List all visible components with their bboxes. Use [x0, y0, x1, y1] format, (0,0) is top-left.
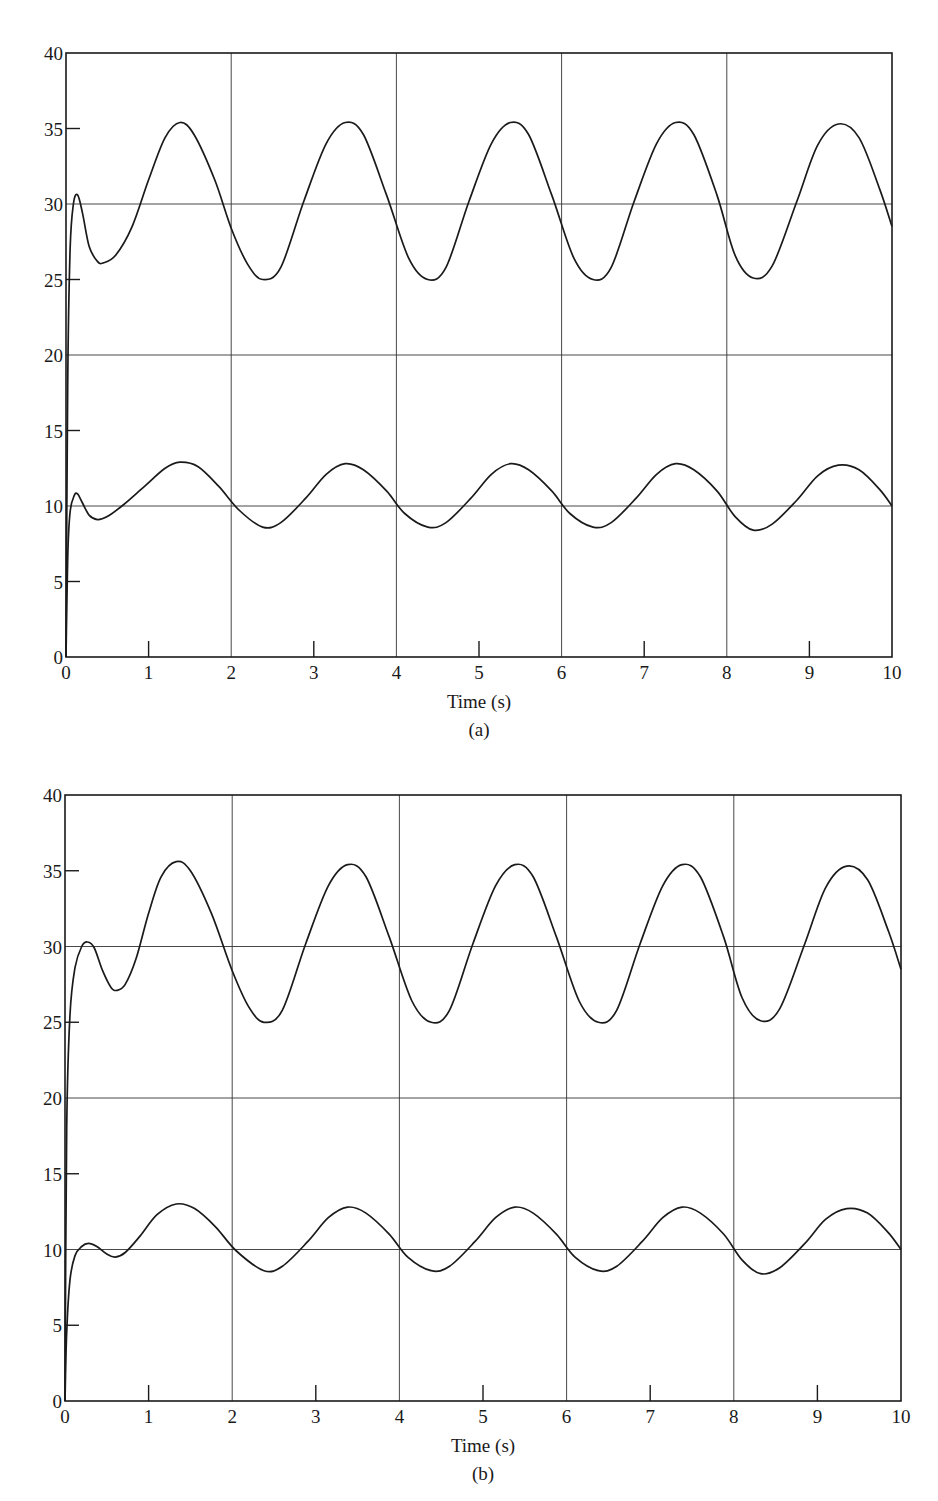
x-tick-label: 4	[395, 1406, 405, 1427]
y-tick-label: 20	[44, 345, 63, 366]
x-tick-label: 7	[639, 662, 649, 683]
x-tick-label: 7	[645, 1406, 655, 1427]
series-line-lower	[66, 462, 892, 657]
x-tick-label: 10	[883, 662, 902, 683]
y-tick-label: 30	[43, 937, 62, 958]
x-tick-label: 9	[813, 1406, 823, 1427]
y-tick-label: 40	[44, 43, 63, 64]
chart-panel-b: 0123456789100510152025303540Time (s)(b)	[43, 785, 911, 1485]
x-axis-title: Time (s)	[451, 1435, 515, 1457]
y-tick-label: 5	[54, 572, 64, 593]
y-tick-label: 15	[44, 421, 63, 442]
y-tick-label: 25	[43, 1012, 62, 1033]
y-tick-label: 40	[43, 785, 62, 806]
chart-panel-a: 0123456789100510152025303540Time (s)(a)	[44, 43, 902, 741]
series-line-upper	[66, 122, 892, 657]
x-tick-label: 3	[309, 662, 319, 683]
series-line-lower	[65, 1204, 901, 1401]
x-tick-label: 3	[311, 1406, 321, 1427]
x-tick-label: 5	[474, 662, 484, 683]
series-line-upper	[65, 861, 901, 1401]
panel-caption: (b)	[472, 1463, 494, 1485]
x-tick-label: 8	[729, 1406, 739, 1427]
x-tick-label: 10	[892, 1406, 911, 1427]
y-tick-label: 20	[43, 1088, 62, 1109]
x-tick-label: 4	[392, 662, 402, 683]
x-tick-label: 2	[226, 662, 236, 683]
y-tick-label: 0	[53, 1391, 63, 1412]
x-tick-label: 1	[144, 662, 154, 683]
y-tick-label: 15	[43, 1164, 62, 1185]
x-tick-label: 9	[805, 662, 815, 683]
x-tick-label: 2	[227, 1406, 237, 1427]
x-tick-label: 5	[478, 1406, 488, 1427]
y-tick-label: 25	[44, 270, 63, 291]
y-tick-label: 0	[54, 647, 64, 668]
figure: 0123456789100510152025303540Time (s)(a) …	[0, 0, 938, 1501]
x-axis-title: Time (s)	[447, 691, 511, 713]
x-tick-label: 6	[562, 1406, 572, 1427]
y-tick-label: 35	[44, 119, 63, 140]
x-tick-label: 8	[722, 662, 732, 683]
y-tick-label: 5	[53, 1315, 63, 1336]
y-tick-label: 10	[44, 496, 63, 517]
y-tick-label: 30	[44, 194, 63, 215]
x-tick-label: 1	[144, 1406, 154, 1427]
y-tick-label: 10	[43, 1240, 62, 1261]
y-tick-label: 35	[43, 861, 62, 882]
x-tick-label: 6	[557, 662, 567, 683]
panel-caption: (a)	[468, 719, 489, 741]
